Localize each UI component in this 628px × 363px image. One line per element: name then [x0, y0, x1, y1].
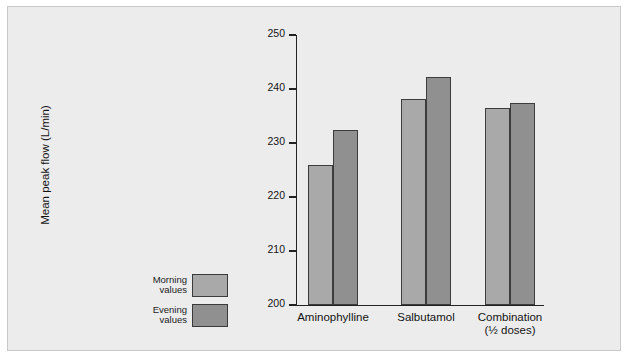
bar [426, 77, 451, 305]
y-tick-label: 240 [267, 81, 289, 93]
y-tick-label: 220 [267, 189, 289, 201]
x-axis-line [296, 305, 544, 306]
y-axis-line [296, 35, 297, 306]
bar [333, 130, 358, 306]
y-tick-label: 200 [267, 297, 289, 309]
figure-panel: Morning values Evening values Mean peak … [7, 6, 621, 351]
y-tick-230: 230 [289, 142, 296, 143]
bar [401, 99, 426, 305]
y-tick-200: 200 [289, 304, 296, 305]
bar [308, 165, 333, 305]
y-tick-label: 230 [267, 135, 289, 147]
y-tick-240: 240 [289, 88, 296, 89]
bar [510, 103, 535, 306]
plot-area: Mean peak flow (L/min) 20021022023024025… [8, 7, 622, 352]
y-tick-label: 210 [267, 243, 289, 255]
y-tick-210: 210 [289, 250, 296, 251]
y-tick-label: 250 [267, 27, 289, 39]
y-tick-250: 250 [289, 34, 296, 35]
y-tick-220: 220 [289, 196, 296, 197]
x-category-label: Combination (½ doses) [440, 311, 580, 337]
y-axis-title: Mean peak flow (L/min) [39, 50, 51, 280]
bar [485, 108, 510, 305]
